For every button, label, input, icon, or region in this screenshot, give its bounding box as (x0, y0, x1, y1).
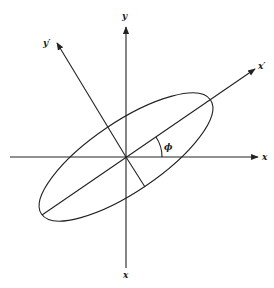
minor-axis-segment (126, 157, 145, 187)
label-phi: ϕ (164, 142, 173, 152)
label-bottom-x: x (122, 270, 129, 280)
label-y: y (121, 11, 128, 21)
label-y-prime: y′ (42, 38, 51, 48)
x-prime-axis (42, 69, 255, 215)
ellipse-diagram: y y′ x′ x x ϕ (0, 0, 274, 288)
label-x-prime: x′ (257, 61, 266, 71)
y-prime-axis (57, 43, 126, 157)
angle-arc (156, 137, 162, 157)
label-x: x (261, 152, 268, 162)
